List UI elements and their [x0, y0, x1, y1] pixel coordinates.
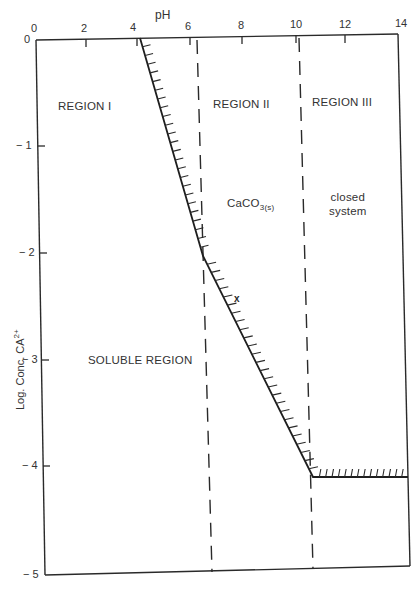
y-axis-title: Log. Conc. CA2+ [12, 329, 26, 410]
right-border [398, 34, 410, 566]
plot-frame [36, 34, 410, 575]
x-axis-title: pH [155, 8, 170, 22]
closed-system-line1: closed [329, 190, 367, 204]
x-tick-label: 8 [238, 19, 244, 31]
point-marker-x: x [234, 293, 240, 304]
x-tick-label: 14 [395, 17, 407, 29]
region-i-label: REGION I [58, 100, 111, 112]
x-tick-label: 4 [130, 21, 136, 33]
x-axis-top [36, 34, 398, 40]
y-tick-label: − 2 [19, 246, 35, 258]
chart-canvas: x [0, 0, 419, 589]
x-tick-label: 10 [290, 18, 302, 30]
caco3-solid-label: CaCO3(s) [227, 197, 274, 212]
closed-system-label: closed system [329, 190, 367, 218]
caco3-sub: 3(s) [260, 203, 275, 212]
y-tick-label: − 5 [23, 568, 39, 580]
dashed-boundary-region-ii [197, 40, 212, 572]
y-axis-left [36, 40, 45, 575]
region-ii-label: REGION II [213, 98, 270, 110]
boundary-hatching [143, 45, 404, 477]
closed-system-line2: system [329, 204, 367, 218]
x-tick-label: 2 [81, 22, 87, 34]
x-tick-label: 6 [185, 20, 191, 32]
x-axis-bottom [45, 566, 410, 575]
soluble-region-label: SOLUBLE REGION [88, 354, 192, 366]
y-axis-title-main: Log. Conc. CA [14, 338, 26, 410]
caco3-main: CaCO [227, 197, 260, 209]
x-tick-label: 12 [339, 18, 351, 30]
dashed-boundary-region-iii [299, 38, 313, 569]
x-tick-label: 0 [31, 22, 37, 34]
y-tick-label: − 1 [16, 139, 32, 151]
region-iii-label: REGION III [312, 96, 372, 108]
y-axis-title-sup: 2+ [12, 329, 21, 338]
y-tick-label: − 4 [22, 459, 38, 471]
y-tick-label: 0 [24, 33, 30, 45]
